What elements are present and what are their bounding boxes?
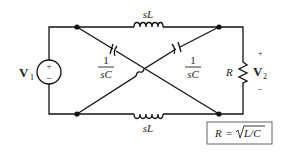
circuit-diagram: + − V 1 sL sL 1 sC 1 sC R + V 2 − R = L/…	[0, 0, 285, 156]
source-subscript: 1	[30, 73, 34, 82]
capacitor-right-denominator: sC	[187, 68, 199, 80]
node-top-right	[216, 24, 221, 29]
inductor-top-label: sL	[143, 8, 153, 20]
diag-b-seg2	[180, 27, 219, 47]
wire-bottom-right	[163, 86, 243, 114]
resistor-label: R	[225, 66, 233, 78]
formula-rhs: L/C	[243, 127, 261, 139]
inductor-bottom-label: sL	[143, 122, 153, 134]
output-plus: +	[258, 49, 263, 58]
output-label: V	[253, 64, 263, 79]
node-bottom-left	[74, 111, 79, 116]
capacitor-right-plate1	[172, 44, 175, 54]
node-top-left	[74, 24, 79, 29]
wire-left-top	[49, 27, 77, 60]
inductor-top	[134, 23, 163, 28]
wire-top-right	[163, 27, 243, 58]
diag-a-seg1	[77, 27, 113, 49]
formula-equals: =	[226, 127, 232, 139]
source-minus: −	[46, 73, 52, 84]
formula-lhs: R	[214, 127, 222, 139]
capacitor-left-denominator: sC	[100, 68, 112, 80]
output-subscript: 2	[263, 72, 267, 81]
diag-a-seg2	[116, 51, 219, 114]
diag-b-seg1	[77, 49, 176, 114]
resistor-symbol	[239, 58, 247, 86]
node-bottom-right	[216, 111, 221, 116]
wire-left-bottom	[49, 84, 77, 114]
source-label: V	[19, 65, 29, 80]
capacitor-right-numerator: 1	[190, 54, 196, 66]
source-plus: +	[46, 61, 51, 71]
output-minus: −	[257, 84, 262, 94]
capacitor-left-numerator: 1	[103, 54, 109, 66]
inductor-bottom	[134, 114, 163, 119]
